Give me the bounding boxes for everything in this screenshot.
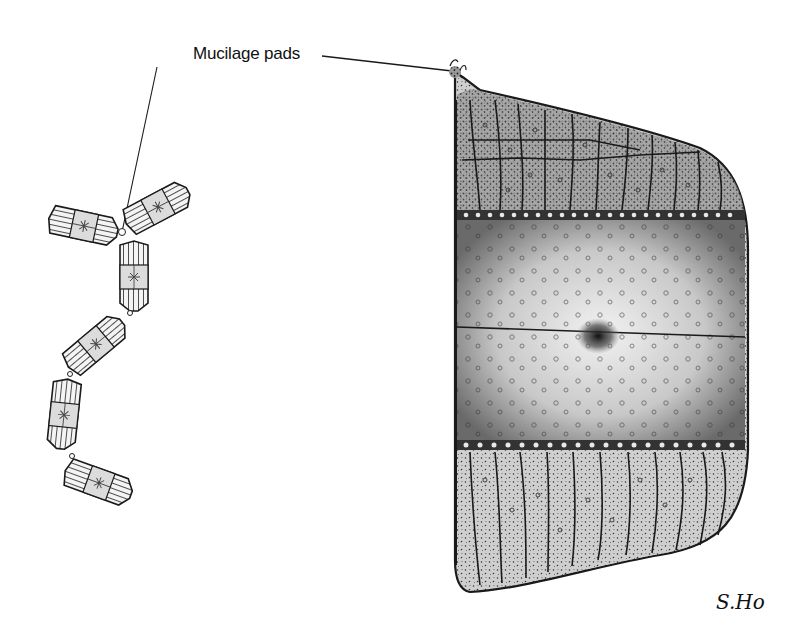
mucilage-pad-apex xyxy=(449,60,466,78)
artist-signature: S.Ho xyxy=(716,590,765,614)
diatom-illustration xyxy=(0,0,800,636)
diatom-chain xyxy=(46,179,195,508)
mucilage-pads-label: Mucilage pads xyxy=(193,44,300,64)
central-nodule xyxy=(576,318,620,354)
leader-line-cell xyxy=(322,56,452,71)
single-cell-detail xyxy=(449,60,748,592)
